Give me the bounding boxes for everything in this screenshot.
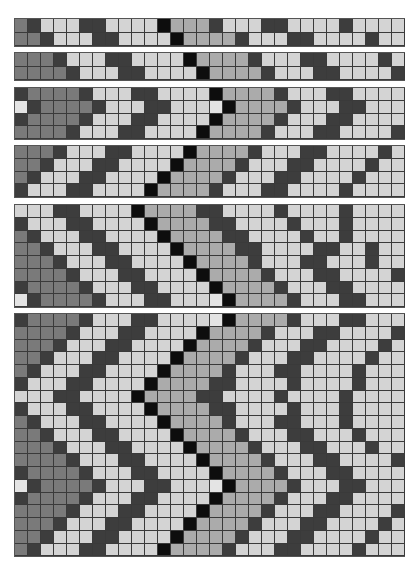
grid-cell (210, 114, 223, 127)
grid-cell (262, 243, 275, 256)
grid-cell (28, 403, 41, 416)
grid-cell (275, 19, 288, 33)
grid-cell (353, 101, 366, 114)
grid-cell (379, 231, 392, 244)
grid-cell (197, 442, 210, 455)
grid-cell (54, 205, 67, 218)
grid-cell (223, 184, 236, 197)
grid-cell (119, 365, 132, 378)
grid-cell (340, 518, 353, 531)
grid-cell (301, 505, 314, 518)
grid-cell (236, 159, 249, 172)
grid-cell (28, 172, 41, 185)
grid-cell (197, 544, 210, 557)
grid-cell (275, 378, 288, 391)
grid-cell (288, 114, 301, 127)
grid-cell (275, 67, 288, 81)
grid-cell (132, 403, 145, 416)
grid-cell (314, 53, 327, 67)
grid-cell (210, 269, 223, 282)
grid-cell (379, 391, 392, 404)
grid-cell (106, 205, 119, 218)
grid-cell (80, 314, 93, 327)
grid-cell (197, 505, 210, 518)
grid-cell (145, 391, 158, 404)
grid-cell (340, 505, 353, 518)
grid-cell (392, 454, 405, 467)
grid-cell (132, 67, 145, 81)
grid-cell (210, 429, 223, 442)
grid-cell (223, 442, 236, 455)
grid-cell (171, 53, 184, 67)
grid-cell (197, 218, 210, 231)
grid-cell (353, 505, 366, 518)
grid-cell (262, 269, 275, 282)
grid-cell (158, 88, 171, 101)
grid-cell (145, 256, 158, 269)
grid-cell (275, 493, 288, 506)
grid-cell (249, 218, 262, 231)
grid-cell (275, 480, 288, 493)
grid-cell (28, 467, 41, 480)
grid-cell (210, 159, 223, 172)
grid-cell (80, 442, 93, 455)
grid-cell (184, 365, 197, 378)
grid-cell (93, 184, 106, 197)
grid-cell (301, 19, 314, 33)
grid-cell (15, 442, 28, 455)
grid-cell (327, 53, 340, 67)
grid-cell (158, 53, 171, 67)
grid-cell (41, 231, 54, 244)
grid-cell (184, 327, 197, 340)
grid-cell (314, 33, 327, 47)
grid-cell (28, 243, 41, 256)
grid-cell (197, 114, 210, 127)
grid-cell (106, 172, 119, 185)
grid-cell (80, 256, 93, 269)
grid-cell (262, 467, 275, 480)
grid-cell (379, 442, 392, 455)
grid-cell (93, 101, 106, 114)
grid-cell (223, 67, 236, 81)
grid-cell (236, 114, 249, 127)
grid-cell (275, 544, 288, 557)
grid-cell (197, 19, 210, 33)
grid-cell (210, 314, 223, 327)
grid-cell (80, 231, 93, 244)
grid-cell (171, 454, 184, 467)
grid-cell (197, 403, 210, 416)
grid-cell (353, 480, 366, 493)
grid-cell (93, 19, 106, 33)
grid-cell (275, 88, 288, 101)
grid-cell (15, 67, 28, 81)
grid-cell (28, 256, 41, 269)
grid-cell (379, 352, 392, 365)
grid-cell (145, 403, 158, 416)
grid-cell (314, 493, 327, 506)
grid-cell (80, 294, 93, 307)
grid-cell (41, 467, 54, 480)
grid-cell (184, 282, 197, 295)
grid-cell (184, 378, 197, 391)
grid-cell (80, 114, 93, 127)
grid-cell (67, 184, 80, 197)
grid-cell (158, 493, 171, 506)
grid-cell (106, 505, 119, 518)
grid-cell (67, 544, 80, 557)
grid-cell (340, 544, 353, 557)
grid-cell (392, 416, 405, 429)
grid-cell (132, 365, 145, 378)
grid-cell (249, 365, 262, 378)
grid-cell (379, 33, 392, 47)
grid-cell (288, 429, 301, 442)
grid-cell (15, 518, 28, 531)
grid-cell (184, 231, 197, 244)
grid-cell (379, 205, 392, 218)
grid-cell (158, 518, 171, 531)
grid-cell (353, 114, 366, 127)
grid-cell (366, 282, 379, 295)
grid-cell (392, 53, 405, 67)
grid-cell (54, 314, 67, 327)
grid-cell (340, 442, 353, 455)
grid-cell (145, 467, 158, 480)
